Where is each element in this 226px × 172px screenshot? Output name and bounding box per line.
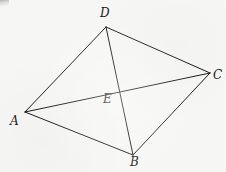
vertex-label-D: D [100,7,110,19]
geometry-figure: D C A B E [0,0,226,172]
segment-side-CB [133,73,210,155]
vertex-label-E: E [103,93,112,105]
segment-side-BA [25,112,133,155]
diagram-canvas [0,0,226,172]
vertex-label-C: C [213,69,222,81]
segment-diagonal-AC [25,73,210,112]
segment-side-DC [106,27,210,73]
vertex-label-A: A [10,115,19,127]
segment-side-AD [25,27,106,112]
vertex-label-B: B [130,156,139,168]
segment-diagonal-DB [106,27,133,155]
